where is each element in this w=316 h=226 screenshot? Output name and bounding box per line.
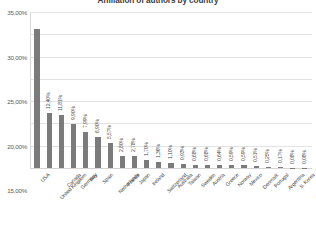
x-label-slot: Canada (55, 170, 67, 226)
bar-value-label: 2,80% (118, 138, 124, 152)
x-label-slot: USA (31, 170, 43, 226)
bar[interactable] (193, 165, 198, 168)
bar[interactable] (59, 115, 64, 168)
bar-slot: 0,68% (201, 12, 213, 168)
x-label-slot: Norway (226, 170, 238, 226)
x-label-slot: Switzerland (153, 170, 165, 226)
bar-value-label: 1,36% (154, 144, 160, 158)
y-axis-tick-label: 30,00% (7, 53, 27, 60)
bar-slot: 12,40% (43, 12, 55, 168)
bar-slot: 0,51% (250, 12, 262, 168)
x-label-slot: Germany (68, 170, 80, 226)
bar[interactable] (229, 165, 234, 168)
bar-slot: 0,64% (214, 12, 226, 168)
bar[interactable] (241, 165, 246, 168)
bar-value-label: 0,64% (215, 147, 221, 161)
gridline: 0,00% (30, 168, 312, 169)
chart-title: Affiliation of authors by country (0, 0, 316, 5)
x-label-slot: Italy (80, 170, 92, 226)
x-label-slot: United Kingdom (43, 170, 55, 226)
x-label-slot: Ireland (141, 170, 153, 226)
bar[interactable] (254, 166, 259, 168)
x-label-slot: Austria (201, 170, 213, 226)
x-label-slot: Australia (165, 170, 177, 226)
bar[interactable] (34, 29, 39, 169)
bar-value-label: 12,40% (45, 92, 51, 108)
bar-value-label: 1,70% (142, 143, 148, 157)
bar[interactable] (47, 113, 52, 168)
bar-slot: 0,59% (238, 12, 250, 168)
bar-value-label: 0,17% (276, 150, 282, 164)
x-label-slot: Sweden (189, 170, 201, 226)
x-label-slot: Argentina (274, 170, 286, 226)
bar-slot: 0,08% (287, 12, 299, 168)
bar-value-label: 7,99% (81, 115, 87, 129)
bar-slot: 5,57% (104, 12, 116, 168)
bar-value-label: 6,90% (94, 120, 100, 134)
y-axis-tick-label: 15,00% (7, 187, 27, 194)
bar[interactable] (181, 164, 186, 168)
x-label-slot: Denmark (250, 170, 262, 226)
bar-slot: 2,78% (128, 12, 140, 168)
bar-value-label: 0,08% (300, 150, 306, 164)
x-label-slot: Japan (128, 170, 140, 226)
x-label-slot: Greece (214, 170, 226, 226)
bar-slot: 1,36% (153, 12, 165, 168)
bar[interactable] (71, 124, 76, 168)
bar-slot: 1,10% (165, 12, 177, 168)
x-label-slot: Mexico (238, 170, 250, 226)
bar-slot: 7,99% (80, 12, 92, 168)
bar-value-label: 0,59% (240, 148, 246, 162)
bar-slot (31, 12, 43, 168)
bar-value-label: 0,59% (227, 148, 233, 162)
bar[interactable] (217, 165, 222, 168)
bar-value-label: 9,90% (69, 106, 75, 120)
plot-area: 35,00%30,00%25,00%20,00%15,00%10,00%5,00… (30, 12, 312, 168)
bar-value-label: 0,93% (179, 146, 185, 160)
x-label-slot: Spain (92, 170, 104, 226)
bars-container: 12,40%11,81%9,90%7,99%6,90%5,57%2,80%2,7… (30, 12, 312, 168)
bar-value-label: 0,51% (252, 148, 258, 162)
bar-slot: 6,90% (92, 12, 104, 168)
bar[interactable] (144, 160, 149, 168)
bar-value-label: 0,08% (288, 150, 294, 164)
bar-slot: 9,90% (68, 12, 80, 168)
bar-slot: 11,81% (55, 12, 67, 168)
bar-value-label: 1,10% (167, 145, 173, 159)
y-axis-tick-label: 35,00% (7, 9, 27, 16)
x-label-slot: Taiwan (177, 170, 189, 226)
y-axis-tick-label: 25,00% (7, 98, 27, 105)
bar-slot: 0,25% (262, 12, 274, 168)
bar-slot: 1,70% (141, 12, 153, 168)
bar-slot: 0,93% (177, 12, 189, 168)
bar[interactable] (168, 163, 173, 168)
bar-value-label: 2,78% (130, 138, 136, 152)
x-axis-labels: USAUnited KingdomCanadaGermanyItalySpain… (30, 170, 312, 226)
bar-slot: 0,59% (226, 12, 238, 168)
bar[interactable] (108, 143, 113, 168)
x-label-slot: S. Korea (287, 170, 299, 226)
bar-value-label: 0,68% (191, 147, 197, 161)
bar-value-label: 0,25% (264, 149, 270, 163)
bar-slot: 0,17% (274, 12, 286, 168)
bar-chart: Affiliation of authors by country 35,00%… (0, 0, 316, 226)
x-label-slot: France (116, 170, 128, 226)
bar[interactable] (132, 156, 137, 168)
bar-value-label: 11,81% (57, 95, 63, 111)
bar[interactable] (120, 156, 125, 168)
bar-slot: 0,68% (189, 12, 201, 168)
bar[interactable] (95, 137, 100, 168)
x-label-slot: Czech Republic (299, 170, 311, 226)
bar-slot: 0,08% (299, 12, 311, 168)
y-axis-tick-label: 20,00% (7, 142, 27, 149)
bar[interactable] (83, 132, 88, 168)
x-label-slot: Netherlands (104, 170, 116, 226)
bar[interactable] (205, 165, 210, 168)
bar[interactable] (278, 167, 283, 168)
bar-value-label: 5,57% (106, 125, 112, 139)
bar-value-label: 0,68% (203, 147, 209, 161)
bar[interactable] (266, 167, 271, 168)
bar[interactable] (156, 162, 161, 168)
bar-slot: 2,80% (116, 12, 128, 168)
x-label-slot: Portugal (262, 170, 274, 226)
